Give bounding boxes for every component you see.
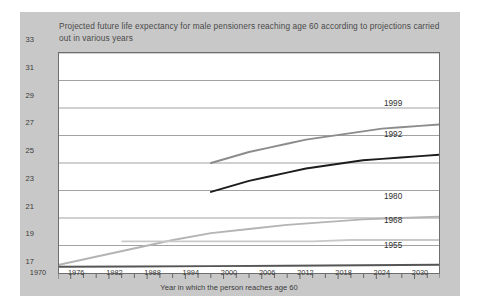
series-line-1992 [211, 155, 439, 192]
plot-svg [59, 53, 439, 273]
plot-area [58, 52, 440, 274]
series-line-1955 [59, 265, 439, 267]
chart-panel: Projected future life expectancy for mal… [20, 12, 460, 296]
chart-title: Projected future life expectancy for mal… [59, 21, 449, 44]
gridlines [59, 53, 439, 246]
x-tickmarks [58, 274, 440, 280]
